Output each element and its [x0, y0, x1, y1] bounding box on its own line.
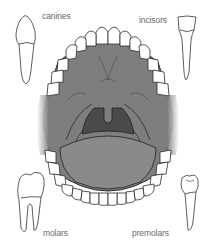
label-molars: molars	[43, 228, 68, 238]
premolar-tooth-icon	[181, 175, 198, 230]
canine-tooth-icon	[16, 16, 35, 84]
mouth-teeth-diagram	[0, 0, 213, 248]
label-canines: canines	[42, 11, 71, 21]
molar-tooth-icon	[18, 172, 44, 231]
label-incisors: incisors	[139, 15, 167, 25]
tongue	[60, 136, 156, 189]
incisor-tooth-icon	[178, 16, 196, 80]
label-premolars: premolars	[132, 228, 169, 238]
